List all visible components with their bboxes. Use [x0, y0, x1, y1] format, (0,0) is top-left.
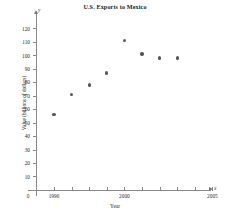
- y-tick-80: [33, 82, 37, 83]
- y-axis-variable-label: y: [38, 7, 40, 13]
- x-tick-1997: [72, 187, 73, 191]
- y-tick-label-120: 120: [14, 26, 30, 32]
- x-tick-1996: [54, 187, 55, 191]
- x-axis-title: Year: [70, 203, 160, 209]
- y-tick-70: [33, 96, 37, 97]
- y-tick-90: [33, 69, 37, 70]
- y-tick-30: [33, 150, 37, 151]
- x-tick-label-2005: 2005: [200, 193, 224, 199]
- y-tick-10: [33, 176, 37, 177]
- y-tick-40: [33, 136, 37, 137]
- x-tick-2000: [124, 187, 125, 191]
- y-tick-60: [33, 109, 37, 110]
- y-tick-110: [33, 42, 37, 43]
- x-tick-2005: [212, 187, 213, 191]
- y-axis-arrow-icon: [34, 10, 38, 14]
- data-point: [158, 56, 161, 59]
- x-axis-variable-label: x: [214, 185, 216, 191]
- y-tick-120: [33, 28, 37, 29]
- x-tick-label-1996: 1996: [42, 193, 66, 199]
- data-point: [123, 39, 126, 42]
- y-axis-title: Value (billions of dollars): [21, 43, 27, 163]
- x-tick-2004: [195, 187, 196, 191]
- data-point: [140, 52, 143, 55]
- x-tick-2003: [177, 187, 178, 191]
- chart-container: U.S. Exports to Mexico y x 0 10203040506…: [0, 0, 230, 220]
- data-point: [70, 93, 73, 96]
- x-tick-2002: [160, 187, 161, 191]
- x-tick-2001: [142, 187, 143, 191]
- y-tick-100: [33, 55, 37, 56]
- x-tick-label-2000: 2000: [112, 193, 136, 199]
- y-tick-50: [33, 123, 37, 124]
- origin-label: 0: [22, 193, 34, 199]
- x-tick-1998: [89, 187, 90, 191]
- data-point: [105, 71, 108, 74]
- x-axis-line: [28, 190, 211, 191]
- y-tick-20: [33, 163, 37, 164]
- y-tick-label-10: 10: [14, 174, 30, 180]
- data-point: [176, 56, 179, 59]
- data-point: [52, 113, 55, 116]
- plot-area: y x 0 102030405060708090100110120 199620…: [0, 0, 230, 220]
- data-point: [88, 83, 91, 86]
- x-tick-1999: [107, 187, 108, 191]
